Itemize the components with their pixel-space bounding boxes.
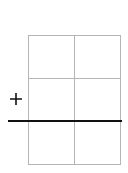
- plus-icon: [10, 93, 22, 105]
- thick-horizontal-line: [8, 120, 122, 122]
- grid-vertical-divider: [74, 35, 75, 165]
- grid-horizontal-divider: [28, 78, 121, 79]
